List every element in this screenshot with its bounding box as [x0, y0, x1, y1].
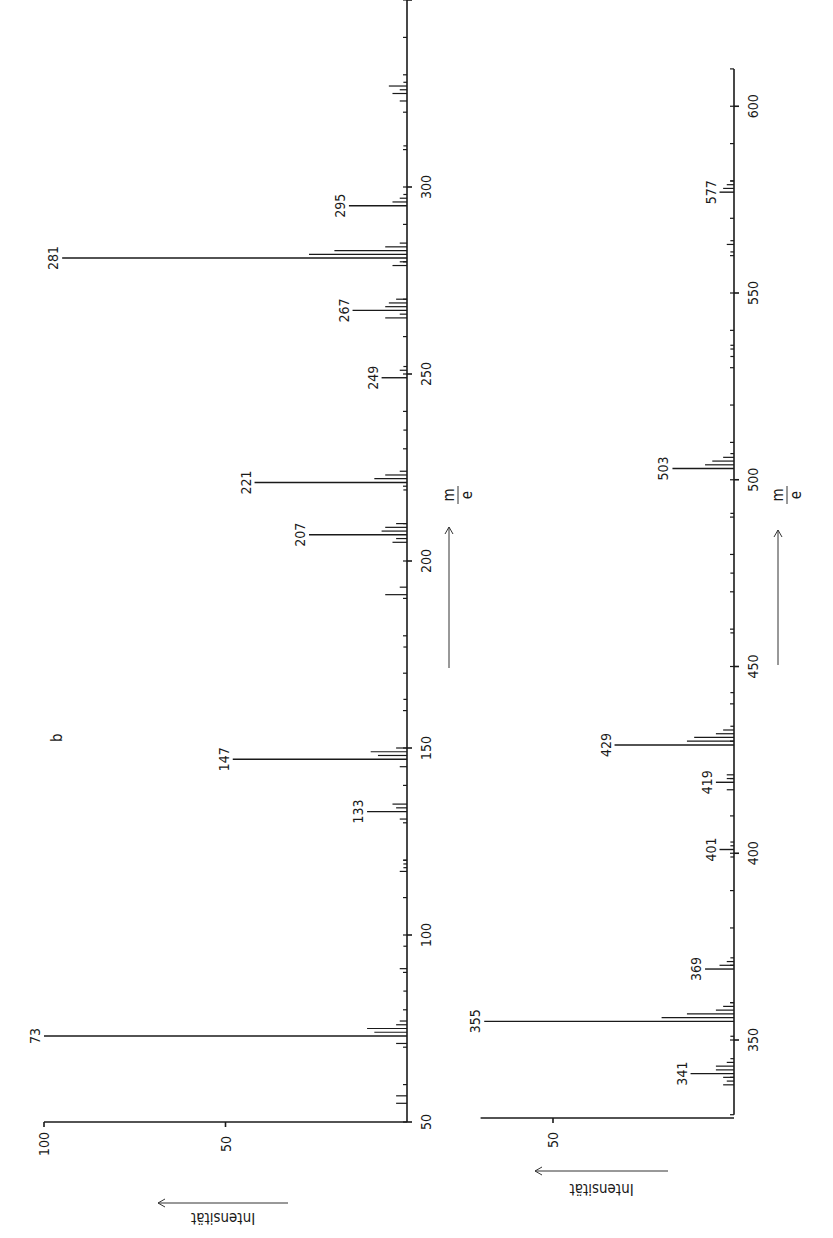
- mz-label-numerator: m: [769, 488, 787, 501]
- peak-label: 133: [350, 800, 366, 824]
- peak-label: 281: [45, 246, 61, 270]
- mz-label-numerator: m: [440, 488, 458, 501]
- peak-label: 369: [688, 957, 704, 981]
- mz-tick-label: 500: [745, 468, 761, 492]
- mz-tick-label: 100: [418, 923, 434, 947]
- mass-spectrum-figure: 5010050100150200250300731331472072212492…: [0, 0, 833, 1238]
- mz-tick-label: 150: [418, 736, 434, 760]
- panel-label: b: [48, 733, 66, 742]
- peak-label: 207: [292, 523, 308, 547]
- peak-label: 503: [655, 457, 671, 481]
- intensity-tick-label: 50: [218, 1136, 234, 1152]
- mz-tick-label: 400: [745, 841, 761, 865]
- peak-label: 249: [365, 366, 381, 390]
- peak-label: 355: [467, 1009, 483, 1033]
- intensity-axis-label: Intensität: [569, 1180, 633, 1198]
- intensity-tick-label: 100: [36, 1132, 52, 1156]
- mz-label-denominator: e: [787, 491, 805, 499]
- mz-tick-label: 250: [418, 362, 434, 386]
- mass-spectrum-svg: 5010050100150200250300731331472072212492…: [0, 0, 833, 1238]
- peak-label: 295: [332, 194, 348, 218]
- mz-tick-label: 550: [745, 281, 761, 305]
- peak-label: 419: [699, 770, 715, 794]
- mz-label-denominator: e: [458, 491, 476, 499]
- mz-tick-label: 200: [418, 549, 434, 573]
- lower-spectrum-chart: 5035040045050055060034135536940141942950…: [467, 69, 805, 1198]
- peak-label: 73: [27, 1028, 43, 1044]
- mz-tick-label: 600: [745, 94, 761, 118]
- peak-label: 221: [238, 470, 254, 494]
- mz-tick-label: 450: [745, 654, 761, 678]
- peak-label: 267: [336, 298, 352, 322]
- intensity-tick-label: 50: [545, 1132, 561, 1148]
- peak-label: 429: [598, 733, 614, 757]
- upper-spectrum-chart: 5010050100150200250300731331472072212492…: [27, 0, 476, 1227]
- peak-label: 577: [703, 180, 719, 204]
- mz-tick-label: 350: [745, 1028, 761, 1052]
- intensity-axis-label: Intensität: [191, 1209, 255, 1227]
- peak-label: 401: [703, 837, 719, 861]
- mz-tick-label: 50: [418, 1114, 434, 1130]
- peak-label: 341: [674, 1062, 690, 1086]
- peak-label: 147: [216, 747, 232, 771]
- mz-tick-label: 300: [418, 175, 434, 199]
